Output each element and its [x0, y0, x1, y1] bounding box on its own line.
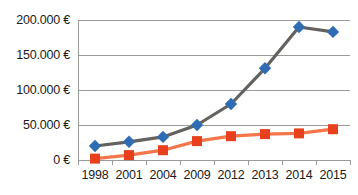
- x-tick-label: 2014: [285, 168, 312, 182]
- x-tick-label: 2015: [319, 168, 346, 182]
- data-point-square: [124, 150, 134, 160]
- data-point-square: [158, 145, 168, 155]
- x-tick-label: 1998: [81, 168, 108, 182]
- x-tick-label: 2004: [149, 168, 176, 182]
- data-point-diamond: [89, 140, 101, 152]
- x-tick-label: 2013: [251, 168, 278, 182]
- data-point-square: [226, 131, 236, 141]
- x-tick-label: 2001: [115, 168, 142, 182]
- data-point-square: [260, 129, 270, 139]
- x-tick-label: 2012: [217, 168, 244, 182]
- data-point-diamond: [327, 26, 339, 38]
- data-point-diamond: [123, 136, 135, 148]
- data-point-square: [328, 124, 338, 134]
- x-axis-labels: 19982001200420092012201320142015: [0, 168, 358, 193]
- data-point-diamond: [157, 131, 169, 143]
- data-point-square: [90, 154, 100, 164]
- chart-container: 0 €50.000 €100.000 €150.000 €200.000 € 1…: [0, 0, 358, 195]
- data-point-square: [192, 136, 202, 146]
- data-point-square: [294, 128, 304, 138]
- series-layer: [0, 0, 358, 195]
- x-tick-label: 2009: [183, 168, 210, 182]
- series-line: [95, 27, 333, 146]
